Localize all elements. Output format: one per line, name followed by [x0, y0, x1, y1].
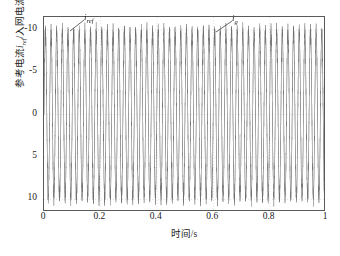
x-tick-label: 0.2	[93, 212, 105, 222]
y-tick-label: 5	[32, 151, 37, 161]
x-tick-label: 0.6	[206, 212, 218, 222]
y-axis-tick-labels: 1050-5-10	[0, 16, 41, 211]
y-tick-label: -5	[29, 66, 37, 76]
x-axis-title: 时间/s	[43, 226, 325, 240]
current-waveform-figure: 参考电流iref/入网电流ig 1050-5-10 00.20.40.60.81…	[0, 0, 340, 256]
x-axis-tick-labels: 00.20.40.60.81	[43, 212, 325, 226]
annotation-subscript-ig: g	[235, 18, 238, 25]
x-tick-label: 0	[41, 212, 46, 222]
x-tick-label: 0.4	[150, 212, 162, 222]
y-tick-label: 0	[32, 109, 37, 119]
waveform-canvas	[44, 17, 325, 211]
plot-area	[43, 16, 325, 211]
annotation-subscript-iref: ref	[87, 17, 94, 24]
x-tick-label: 0.8	[263, 212, 275, 222]
y-tick-label: 10	[28, 194, 38, 204]
annotation-label-iref: iref	[84, 13, 94, 24]
x-tick-label: 1	[323, 212, 328, 222]
annotation-label-ig: ig	[232, 14, 238, 25]
y-tick-label: -10	[24, 24, 37, 34]
